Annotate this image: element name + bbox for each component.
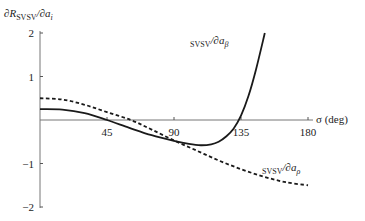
y-axis-title: ∂RSVSV/∂ai — [4, 7, 53, 22]
axes: 21−1−24590135180σ (deg) — [22, 27, 348, 213]
y-tick-label: −2 — [22, 201, 34, 213]
y-tick-label: −1 — [22, 158, 34, 170]
y-tick-label: 1 — [29, 71, 35, 83]
x-tick-label: 45 — [102, 126, 114, 138]
x-tick-label: 180 — [300, 126, 317, 138]
labels: ∂RSVSV/∂aiSVSV/∂aβSVSV/∂aρ — [4, 7, 300, 176]
series-layer — [40, 33, 308, 185]
series-line-a-beta — [40, 33, 265, 145]
chart: 21−1−24590135180σ (deg) ∂RSVSV/∂aiSVSV/∂… — [0, 0, 365, 221]
x-tick-label: 135 — [233, 126, 250, 138]
x-tick-label: 90 — [169, 126, 181, 138]
x-axis-title: σ (deg) — [316, 113, 348, 126]
annotation-a-rho: SVSV/∂aρ — [262, 161, 300, 176]
y-tick-label: 2 — [29, 27, 35, 39]
annotation-a-beta: SVSV/∂aβ — [190, 34, 228, 49]
